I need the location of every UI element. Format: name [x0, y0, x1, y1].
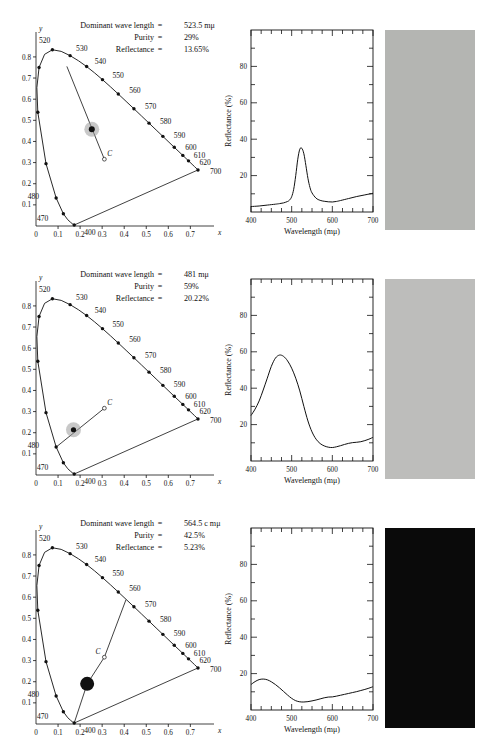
locus-wavelength-label: 570 [145, 600, 157, 609]
locus-marker [44, 411, 47, 414]
locus-marker [147, 370, 150, 373]
locus-marker [37, 564, 40, 567]
white-point-label: C [107, 398, 112, 407]
locus-marker [196, 417, 199, 420]
locus-wavelength-label: 540 [95, 57, 107, 66]
locus-marker [62, 710, 65, 713]
swatch-fill [385, 30, 475, 230]
spectrum-y-tick: 20 [240, 421, 248, 429]
locus-wavelength-label: 590 [174, 131, 186, 140]
locus-wavelength-label: 580 [160, 117, 172, 126]
color-swatch-1 [385, 279, 475, 479]
purity-label: Purity [134, 282, 155, 291]
cie-x-tick: 0.5 [142, 480, 151, 488]
locus-wavelength-label: 470 [37, 214, 49, 223]
cie-x-tick: 0.3 [98, 480, 107, 488]
spectrum-y-axis-title: Reflectance (%) [224, 593, 233, 645]
cie-y-tick: 0.3 [22, 657, 31, 665]
reflectance-curve [251, 148, 373, 207]
cie-x-tick: 0.6 [164, 480, 173, 488]
locus-marker [196, 666, 199, 669]
locus-wavelength-label: 480 [28, 192, 40, 201]
white-point-marker [102, 655, 106, 659]
locus-marker [62, 461, 65, 464]
cie-x-tick: 0.7 [186, 480, 195, 488]
cie-y-tick: 0.5 [22, 615, 31, 623]
locus-marker [117, 341, 120, 344]
cie-y-axis-label: y [38, 273, 43, 282]
cie-y-tick: 0.7 [22, 324, 31, 332]
locus-marker [54, 694, 57, 697]
locus-marker [196, 168, 199, 171]
reflectance-label: Reflectance [116, 543, 155, 552]
cie-y-tick: 0.3 [22, 159, 31, 167]
locus-wavelength-label: 520 [39, 36, 51, 45]
locus-marker [51, 48, 54, 51]
purity-value: 42.5% [184, 531, 205, 540]
locus-marker [181, 154, 184, 157]
sample-point-marker [80, 677, 94, 691]
equals-sign: = [158, 270, 163, 279]
locus-marker [173, 395, 176, 398]
equals-sign: = [158, 282, 163, 291]
color-swatch-2 [385, 528, 475, 728]
spectrum-y-tick: 20 [240, 670, 248, 678]
purity-label: Purity [134, 33, 155, 42]
locus-marker [187, 159, 190, 162]
locus-marker [181, 652, 184, 655]
cie-y-tick: 0.2 [22, 429, 31, 437]
white-point-label: C [107, 149, 112, 158]
cie-y-tick: 0.2 [22, 180, 31, 188]
equals-sign: = [158, 531, 163, 540]
spectrum-x-axis-title: Wavelength (mμ) [284, 227, 340, 236]
dominant-wavelength-label: Dominant wave length [80, 270, 154, 279]
cie-y-tick: 0.7 [22, 75, 31, 83]
reflectance-label: Reflectance [116, 294, 155, 303]
equals-sign: = [158, 45, 163, 54]
locus-wavelength-label: 530 [76, 44, 88, 53]
cie-x-tick: 0.1 [54, 729, 63, 737]
locus-wavelength-label: 470 [37, 463, 49, 472]
spectrum-x-tick: 400 [246, 715, 257, 723]
spectrum-y-tick: 20 [240, 172, 248, 180]
locus-marker [173, 146, 176, 149]
swatch-fill [385, 279, 475, 479]
spectrum-y-tick: 40 [240, 385, 248, 393]
locus-marker [161, 384, 164, 387]
spectrum-y-tick: 80 [240, 561, 248, 569]
spectrum-x-tick: 600 [327, 715, 338, 723]
cie-y-tick: 0.8 [22, 552, 31, 560]
locus-marker [36, 360, 39, 363]
cie-x-tick: 0.7 [186, 231, 195, 239]
cie-x-tick: 0 [34, 231, 38, 239]
locus-marker [117, 92, 120, 95]
spectrum-x-tick: 400 [246, 217, 257, 225]
spectrum-x-tick: 500 [286, 466, 297, 474]
spectrum-y-tick: 40 [240, 136, 248, 144]
dominant-wavelength-label: Dominant wave length [80, 519, 154, 528]
cie-y-tick: 0.6 [22, 96, 31, 104]
cie-y-tick: 0.3 [22, 408, 31, 416]
cie-y-axis-label: y [38, 522, 43, 531]
locus-wavelength-label: 400 [84, 477, 96, 486]
reflectance-chart-2: 40050060070020406080Wavelength (mμ)Refle… [215, 512, 385, 749]
sample-point-marker [89, 126, 95, 132]
white-point-marker [102, 406, 106, 410]
cie-y-tick: 0.7 [22, 573, 31, 581]
locus-wavelength-label: 560 [129, 584, 141, 593]
locus-wavelength-label: 560 [129, 86, 141, 95]
locus-wavelength-label: 540 [95, 306, 107, 315]
purity-value: 59% [184, 282, 199, 291]
figure-page: 00.10.20.30.40.50.60.70.10.20.30.40.50.6… [0, 0, 479, 751]
locus-marker [51, 546, 54, 549]
locus-marker [36, 609, 39, 612]
purity-value: 29% [184, 33, 199, 42]
locus-marker [101, 327, 104, 330]
cie-y-tick: 0.5 [22, 117, 31, 125]
locus-marker [51, 297, 54, 300]
locus-wavelength-label: 620 [199, 656, 211, 665]
locus-wavelength-label: 550 [113, 569, 125, 578]
cie-x-tick: 0.5 [142, 729, 151, 737]
dominant-wavelength-value: 481 mμ [184, 270, 209, 279]
spectrum-y-tick: 60 [240, 597, 248, 605]
